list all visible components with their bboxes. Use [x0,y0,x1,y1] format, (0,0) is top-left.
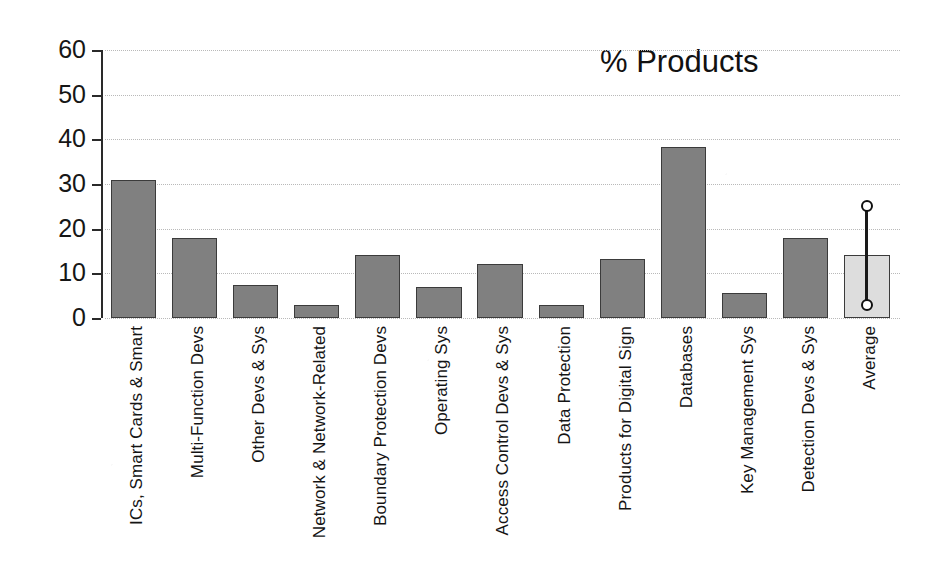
y-tick-mark [92,318,101,320]
error-bar-upper-marker [861,200,873,212]
x-tick-label: Databases [677,326,694,408]
bar-chart: % Products 0102030405060 ICs, Smart Card… [0,0,931,581]
x-label-slot: Data Protection [533,326,594,576]
y-tick-label: 50 [34,82,86,107]
bar[interactable] [722,293,767,318]
x-tick-label: Access Control Devs & Sys [494,326,511,535]
x-tick-label: Products for Digital Sign [616,326,633,511]
x-label-slot: Other Devs & Sys [227,326,288,576]
bar-slot [594,50,655,318]
y-tick-mark [92,50,101,52]
x-tick-label: Other Devs & Sys [249,326,266,463]
y-tick-label: 10 [34,260,86,285]
x-tick-label: Data Protection [555,326,572,445]
x-tick-label: ICs, Smart Cards & Smart [127,326,144,525]
bars-group [105,50,900,318]
y-tick-mark [92,184,101,186]
bar[interactable] [111,180,156,318]
x-axis-labels: ICs, Smart Cards & SmartMulti-Function D… [105,326,900,576]
x-label-slot: Average [839,326,900,576]
x-label-slot: Detection Devs & Sys [778,326,839,576]
x-label-slot: Access Control Devs & Sys [472,326,533,576]
bar[interactable] [477,264,522,318]
bar-slot [472,50,533,318]
x-label-slot: Operating Sys [411,326,472,576]
bar-slot [227,50,288,318]
bar[interactable] [783,238,828,318]
y-tick-mark [92,139,101,141]
error-bar-line [865,206,868,304]
y-tick-mark [92,95,101,97]
bar[interactable] [661,147,706,318]
bar-slot [350,50,411,318]
y-tick-mark [92,273,101,275]
bar-slot [288,50,349,318]
x-label-slot: ICs, Smart Cards & Smart [105,326,166,576]
bar-slot [411,50,472,318]
x-tick-label: Detection Devs & Sys [800,326,817,492]
y-tick-label: 40 [34,126,86,151]
bar-slot [105,50,166,318]
x-label-slot: Network & Network-Related [288,326,349,576]
bar[interactable] [233,285,278,318]
bar-slot [839,50,900,318]
error-bar-lower-marker [861,299,873,311]
x-label-slot: Key Management Sys [717,326,778,576]
x-tick-label: Key Management Sys [739,326,756,494]
x-tick-label: Network & Network-Related [311,326,328,538]
y-axis-line [101,50,103,318]
x-label-slot: Multi-Function Devs [166,326,227,576]
bar-slot [717,50,778,318]
bar[interactable] [539,305,584,318]
bar[interactable] [172,238,217,318]
y-tick-label: 20 [34,216,86,241]
y-tick-label: 0 [34,305,86,330]
y-tick-label: 60 [34,37,86,62]
x-tick-label: Average [861,326,878,390]
bar[interactable] [600,259,645,318]
x-label-slot: Products for Digital Sign [594,326,655,576]
x-tick-label: Operating Sys [433,326,450,435]
x-label-slot: Databases [655,326,716,576]
bar-slot [655,50,716,318]
bar-slot [533,50,594,318]
gridline [105,318,900,319]
y-tick-label: 30 [34,171,86,196]
bar-slot [778,50,839,318]
bar[interactable] [294,305,339,318]
bar-slot [166,50,227,318]
bar[interactable] [355,255,400,318]
y-tick-mark [92,229,101,231]
x-tick-label: Boundary Protection Devs [372,326,389,526]
bar[interactable] [416,287,461,318]
x-tick-label: Multi-Function Devs [188,326,205,478]
x-label-slot: Boundary Protection Devs [350,326,411,576]
